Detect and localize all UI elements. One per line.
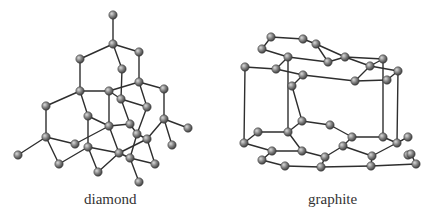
- carbon-atom: [394, 67, 402, 75]
- bond: [46, 137, 59, 164]
- bond: [321, 166, 371, 167]
- carbon-atom: [299, 35, 307, 43]
- carbon-atom: [368, 152, 376, 160]
- carbon-atom: [135, 178, 143, 186]
- carbon-atom: [42, 102, 50, 110]
- carbon-atom: [241, 63, 249, 71]
- bond: [18, 137, 46, 155]
- carbon-atom: [412, 160, 420, 168]
- bond: [109, 82, 139, 91]
- carbon-atom: [109, 40, 117, 48]
- carbon-atom: [126, 154, 134, 162]
- carbon-atom: [321, 153, 329, 161]
- carbon-atom: [84, 112, 92, 120]
- carbon-atom: [407, 150, 415, 158]
- carbon-atom: [379, 133, 387, 141]
- bond: [119, 139, 147, 153]
- bond: [75, 126, 109, 144]
- carbon-atom: [267, 33, 275, 41]
- carbon-atom: [184, 124, 192, 132]
- carbon-atom: [312, 40, 320, 48]
- diamond-label: diamond: [84, 191, 137, 208]
- bond: [355, 80, 387, 81]
- bond: [303, 75, 355, 81]
- carbon-atom: [105, 87, 113, 95]
- carbon-atom: [76, 87, 84, 95]
- graphite-label: graphite: [308, 191, 357, 208]
- carbon-atom: [55, 160, 63, 168]
- carbon-atom: [240, 139, 248, 147]
- carbon-atom: [367, 162, 375, 170]
- carbon-atom: [272, 65, 280, 73]
- bond: [59, 147, 88, 164]
- carbon-atom: [160, 85, 168, 93]
- carbon-atom: [298, 117, 306, 125]
- carbon-atom: [299, 71, 307, 79]
- carbon-atom: [133, 130, 141, 138]
- carbon-atom: [94, 168, 102, 176]
- carbon-atom: [379, 55, 387, 63]
- bond: [343, 146, 372, 156]
- carbon-atom: [168, 141, 176, 149]
- carbon-atom: [298, 147, 306, 155]
- carbon-atom: [284, 128, 292, 136]
- carbon-atom: [117, 95, 125, 103]
- bond: [88, 147, 119, 153]
- bond: [245, 67, 276, 69]
- carbon-atom: [383, 76, 391, 84]
- carbon-atom: [135, 78, 143, 86]
- carbon-atom: [143, 135, 151, 143]
- graphite-structure: [240, 33, 420, 171]
- graphite-atoms: [240, 33, 420, 171]
- carbon-atom: [135, 48, 143, 56]
- bond: [46, 137, 75, 144]
- bond: [244, 67, 245, 143]
- carbon-atom: [109, 11, 117, 19]
- allotropes-diagram: [0, 0, 441, 216]
- bond: [288, 57, 328, 62]
- carbon-atom: [288, 82, 296, 90]
- carbon-atom: [324, 58, 332, 66]
- carbon-atom: [351, 77, 359, 85]
- carbon-atom: [281, 162, 289, 170]
- bond: [397, 71, 398, 143]
- bond: [121, 69, 122, 99]
- carbon-atom: [366, 62, 374, 70]
- diamond-structure: [14, 11, 192, 186]
- carbon-atom: [71, 140, 79, 148]
- carbon-atom: [118, 65, 126, 73]
- carbon-atom: [404, 133, 412, 141]
- carbon-atom: [393, 139, 401, 147]
- carbon-atom: [160, 115, 168, 123]
- carbon-atom: [76, 55, 84, 63]
- carbon-atom: [317, 163, 325, 171]
- bond: [285, 166, 321, 167]
- carbon-atom: [151, 160, 159, 168]
- carbon-atom: [42, 133, 50, 141]
- carbon-atom: [341, 53, 349, 61]
- carbon-atom: [268, 147, 276, 155]
- carbon-atom: [339, 142, 347, 150]
- carbon-atom: [284, 53, 292, 61]
- bond: [46, 91, 80, 106]
- bond: [292, 86, 302, 121]
- carbon-atom: [105, 122, 113, 130]
- carbon-atom: [143, 103, 151, 111]
- carbon-atom: [258, 45, 266, 53]
- bond: [371, 164, 416, 166]
- carbon-atom: [126, 120, 134, 128]
- carbon-atom: [254, 128, 262, 136]
- carbon-atom: [115, 149, 123, 157]
- carbon-atom: [258, 156, 266, 164]
- diamond-atoms: [14, 11, 192, 186]
- bond: [271, 37, 303, 39]
- carbon-atom: [84, 143, 92, 151]
- diamond-bonds: [18, 15, 188, 182]
- carbon-atom: [14, 151, 22, 159]
- bond: [80, 44, 113, 59]
- carbon-atom: [326, 121, 334, 129]
- carbon-atom: [348, 133, 356, 141]
